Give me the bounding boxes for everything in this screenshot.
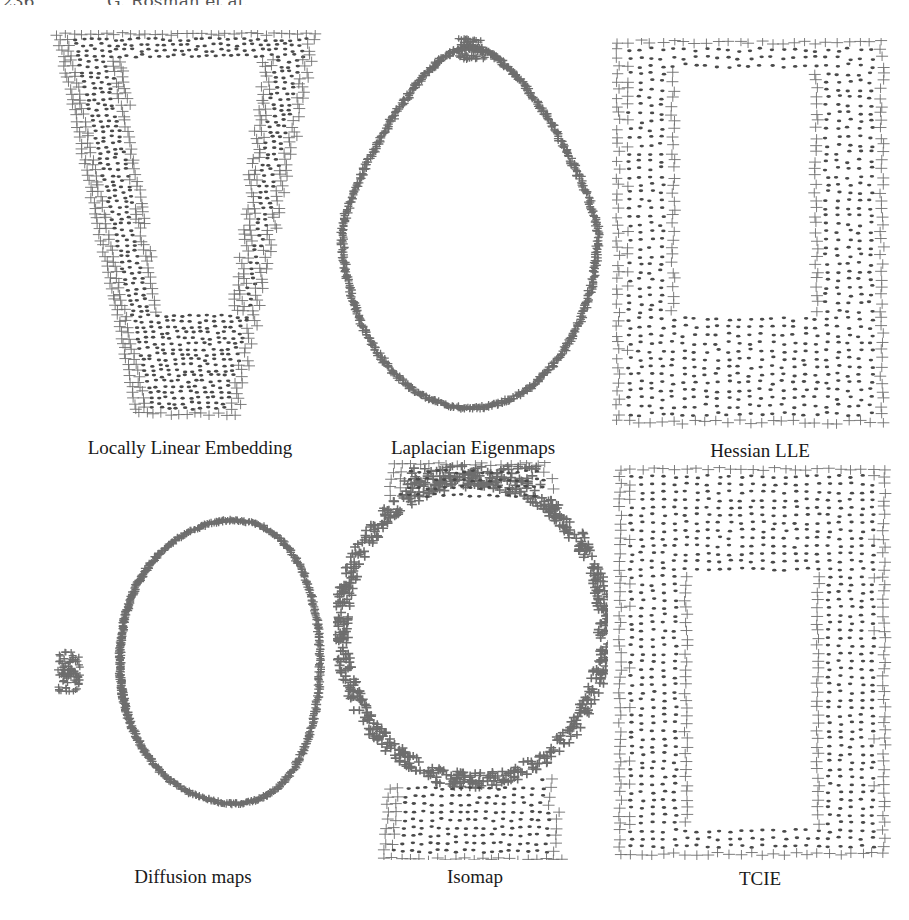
laplacian-scatter-plot [330,28,610,428]
diffusion-scatter-plot [50,462,325,862]
running-head-authors: G. Rosman et al. [107,0,248,5]
caption-diffusion: Diffusion maps [134,866,251,888]
page-number: 236 [2,0,34,5]
running-head: 236 G. Rosman et al. [0,0,909,5]
panel-diffusion [50,462,325,862]
caption-lle: Locally Linear Embedding [88,437,293,459]
lle-scatter-plot [50,30,325,425]
hessian-scatter-plot [612,38,904,430]
tcie-scatter-plot [612,465,907,865]
panel-isomap [333,460,608,860]
panel-hessian [612,38,904,430]
isomap-scatter-plot [333,460,608,860]
caption-hessian: Hessian LLE [710,440,810,462]
panel-laplacian [330,28,610,428]
caption-laplacian: Laplacian Eigenmaps [391,437,555,459]
panel-tcie [612,465,907,865]
caption-isomap: Isomap [447,866,503,888]
caption-tcie: TCIE [739,868,781,890]
panel-lle [50,30,325,425]
